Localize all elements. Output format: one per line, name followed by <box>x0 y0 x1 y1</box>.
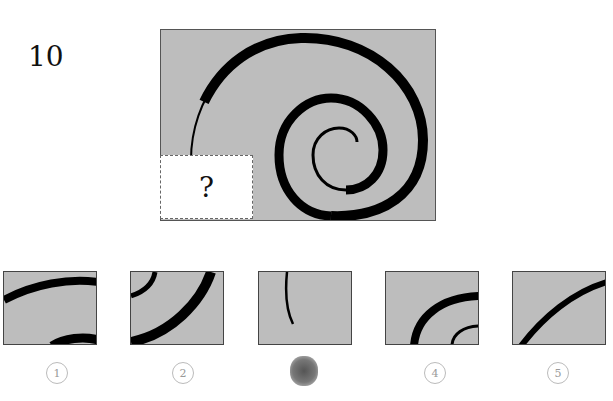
question-number: 10 <box>28 40 64 73</box>
option-4-tile[interactable] <box>385 271 479 345</box>
missing-piece-box: ? <box>160 155 253 219</box>
option-5-tile[interactable] <box>512 271 606 345</box>
option-5-graphic <box>513 272 606 345</box>
option-2-graphic <box>131 272 224 345</box>
option-3-graphic <box>259 272 352 345</box>
option-2-label[interactable]: 2 <box>172 362 194 384</box>
option-4-label[interactable]: 4 <box>424 362 446 384</box>
option-4-graphic <box>386 272 479 345</box>
option-2-tile[interactable] <box>130 271 224 345</box>
option-1-tile[interactable] <box>3 271 97 345</box>
option-1-graphic <box>4 272 97 345</box>
option-3-marked-scribble[interactable] <box>290 356 318 386</box>
option-3-tile[interactable] <box>258 271 352 345</box>
option-1-label[interactable]: 1 <box>46 362 68 384</box>
option-5-label[interactable]: 5 <box>547 362 569 384</box>
